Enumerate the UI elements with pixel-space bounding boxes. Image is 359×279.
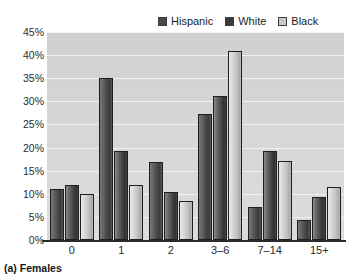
legend-entry-hispanic: Hispanic — [158, 16, 213, 27]
y-tick-label: 40% — [2, 50, 44, 60]
bar-hispanic-0 — [50, 189, 64, 240]
legend-entry-black: Black — [278, 16, 318, 27]
legend-swatch-white — [225, 17, 234, 26]
chart-figure: HispanicWhiteBlack 0%5%10%15%20%25%30%35… — [0, 0, 359, 279]
bar-hispanic-1 — [99, 78, 113, 240]
bar-white-4 — [263, 151, 277, 240]
y-tick-label: 45% — [2, 27, 44, 37]
bar-white-5 — [312, 197, 326, 240]
y-tick-label: 35% — [2, 73, 44, 83]
y-axis: 0%5%10%15%20%25%30%35%40%45% — [0, 32, 44, 240]
x-tick-label-5: 15+ — [295, 244, 345, 257]
bar-black-0 — [80, 194, 94, 240]
bar-group-5 — [295, 32, 345, 240]
bars-layer — [47, 32, 344, 240]
bar-group-1 — [97, 32, 147, 240]
bar-hispanic-5 — [297, 220, 311, 240]
bar-hispanic-2 — [149, 162, 163, 240]
legend-label-white: White — [238, 16, 266, 27]
legend-label-black: Black — [291, 16, 318, 27]
bar-hispanic-4 — [248, 207, 262, 240]
x-tick-label-0: 0 — [47, 244, 97, 257]
y-tick-label: 0% — [2, 235, 44, 245]
x-tick-label-1: 1 — [97, 244, 147, 257]
bar-white-0 — [65, 185, 79, 240]
bar-white-3 — [213, 96, 227, 240]
chart-legend: HispanicWhiteBlack — [158, 13, 348, 29]
legend-swatch-black — [278, 17, 287, 26]
bar-black-1 — [129, 185, 143, 240]
legend-entry-white: White — [225, 16, 266, 27]
x-tick-label-4: 7–14 — [245, 244, 295, 257]
x-axis: 0123–67–1415+ — [47, 244, 344, 260]
legend-swatch-hispanic — [158, 17, 167, 26]
bar-black-2 — [179, 201, 193, 240]
bar-black-3 — [228, 51, 242, 241]
bar-group-4 — [245, 32, 295, 240]
y-tick-label: 20% — [2, 143, 44, 153]
bar-white-1 — [114, 151, 128, 240]
bar-group-0 — [47, 32, 97, 240]
y-tick-label: 5% — [2, 212, 44, 222]
bar-hispanic-3 — [198, 114, 212, 240]
x-tick-label-2: 2 — [146, 244, 196, 257]
legend-label-hispanic: Hispanic — [171, 16, 213, 27]
y-tick-label: 15% — [2, 166, 44, 176]
figure-caption: (a) Females — [4, 262, 62, 274]
bar-white-2 — [164, 192, 178, 240]
y-tick-label: 10% — [2, 189, 44, 199]
bar-black-5 — [327, 187, 341, 240]
bar-black-4 — [278, 161, 292, 240]
x-axis-line — [42, 240, 346, 242]
x-tick-label-3: 3–6 — [196, 244, 246, 257]
y-tick-label: 30% — [2, 96, 44, 106]
bar-group-2 — [146, 32, 196, 240]
y-tick-label: 25% — [2, 119, 44, 129]
bar-group-3 — [196, 32, 246, 240]
